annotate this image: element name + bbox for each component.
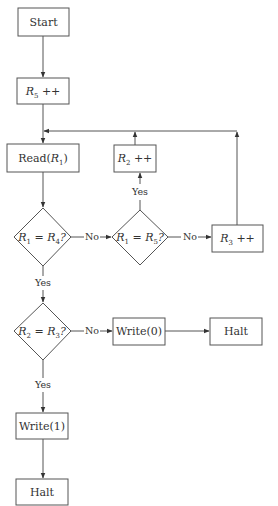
- node-inc-r2: R2 ++: [114, 145, 156, 172]
- flowchart-diagram: Start R5 ++ Read(R1) R2 ++ R1 = R4? R1 =…: [0, 0, 278, 506]
- node-start-label: Start: [29, 16, 58, 29]
- node-dec-r2-eq-r3: R2 = R3?: [14, 303, 71, 360]
- edge-label-no-dec2: No: [183, 231, 197, 242]
- node-inc-r5-label: R5 ++: [25, 85, 61, 100]
- edge-label-yes-dec3: Yes: [34, 379, 51, 390]
- node-halt-bottom-label: Halt: [30, 486, 55, 499]
- node-halt-bottom: Halt: [16, 479, 68, 505]
- node-write0: Write(0): [113, 318, 165, 345]
- node-dec-r1-eq-r4: R1 = R4?: [14, 208, 71, 266]
- node-halt-right-label: Halt: [224, 325, 249, 338]
- node-write1: Write(1): [16, 413, 68, 439]
- edge-label-no-dec1: No: [85, 231, 99, 242]
- edge-label-yes-dec1: Yes: [34, 277, 51, 288]
- node-write1-label: Write(1): [19, 420, 65, 433]
- edge-label-no-dec3: No: [85, 325, 99, 336]
- edge-label-yes-dec2: Yes: [131, 186, 148, 197]
- node-inc-r3-label: R3 ++: [219, 232, 255, 247]
- node-dec-r1-eq-r5: R1 = R5?: [112, 210, 168, 265]
- node-inc-r2-label: R2 ++: [117, 152, 153, 167]
- node-inc-r3: R3 ++: [212, 225, 263, 252]
- node-halt-right: Halt: [210, 318, 262, 345]
- node-inc-r5: R5 ++: [17, 78, 69, 104]
- node-start: Start: [18, 8, 69, 36]
- node-read-r1: Read(R1): [7, 144, 79, 172]
- node-write0-label: Write(0): [116, 325, 162, 338]
